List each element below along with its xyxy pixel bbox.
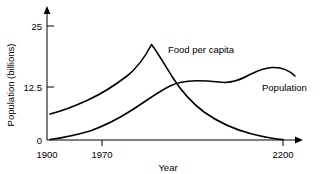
population-food-line-chart: 25 12.5 0 1900 1970 2200 Population (bil… — [0, 0, 320, 174]
x-tick-label-1970: 1970 — [91, 149, 112, 160]
x-axis-arrowhead — [295, 137, 303, 144]
series-curve-food-per-capita — [50, 45, 283, 140]
chart-figure: 25 12.5 0 1900 1970 2200 Population (bil… — [0, 0, 320, 174]
y-tick-label-25: 25 — [31, 21, 42, 32]
y-axis-arrowhead — [44, 6, 51, 14]
series-label-population: Population — [262, 82, 307, 93]
x-tick-label-1900: 1900 — [36, 149, 57, 160]
y-axis-title: Population (billions) — [5, 44, 16, 127]
y-tick-label-0: 0 — [37, 135, 42, 146]
x-axis-title: Year — [158, 162, 177, 173]
x-tick-label-2200: 2200 — [272, 149, 293, 160]
series-label-food-per-capita: Food per capita — [168, 44, 235, 55]
y-tick-label-12-5: 12.5 — [24, 82, 43, 93]
